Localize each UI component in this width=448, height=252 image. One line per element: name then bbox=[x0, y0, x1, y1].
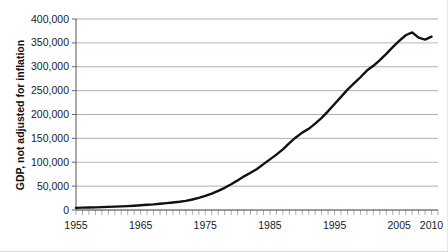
y-axis-title: GDP, not adjusted for inflation bbox=[14, 40, 26, 190]
gridlines bbox=[76, 19, 438, 186]
y-tick-label: 50,000 bbox=[37, 180, 69, 192]
y-axis-tick-labels: 050,000100,000150,000200,000250,000300,0… bbox=[31, 13, 69, 216]
x-tick-label: 1995 bbox=[323, 219, 347, 231]
x-tick-label: 1965 bbox=[129, 219, 153, 231]
x-axis-tick-labels: 1955196519751985199520052010 bbox=[64, 219, 443, 231]
x-axis-minor-ticks bbox=[76, 210, 438, 215]
y-tick-label: 250,000 bbox=[31, 84, 69, 96]
y-axis-tick-marks bbox=[72, 19, 76, 210]
y-tick-label: 300,000 bbox=[31, 60, 69, 72]
y-tick-label: 0 bbox=[63, 204, 69, 216]
x-tick-label: 1985 bbox=[258, 219, 282, 231]
gdp-line-chart: GDP, not adjusted for inflation 050,0001… bbox=[0, 0, 448, 252]
x-tick-label: 2010 bbox=[420, 219, 444, 231]
gdp-series-line bbox=[76, 32, 432, 207]
y-axis-title-group: GDP, not adjusted for inflation bbox=[14, 40, 26, 190]
y-tick-label: 400,000 bbox=[31, 13, 69, 25]
y-tick-label: 200,000 bbox=[31, 108, 69, 120]
y-tick-label: 350,000 bbox=[31, 36, 69, 48]
x-tick-label: 1975 bbox=[194, 219, 218, 231]
x-tick-label: 2005 bbox=[388, 219, 412, 231]
chart-container: GDP, not adjusted for inflation 050,0001… bbox=[0, 0, 448, 252]
y-tick-label: 150,000 bbox=[31, 132, 69, 144]
x-tick-label: 1955 bbox=[64, 219, 88, 231]
y-tick-label: 100,000 bbox=[31, 156, 69, 168]
